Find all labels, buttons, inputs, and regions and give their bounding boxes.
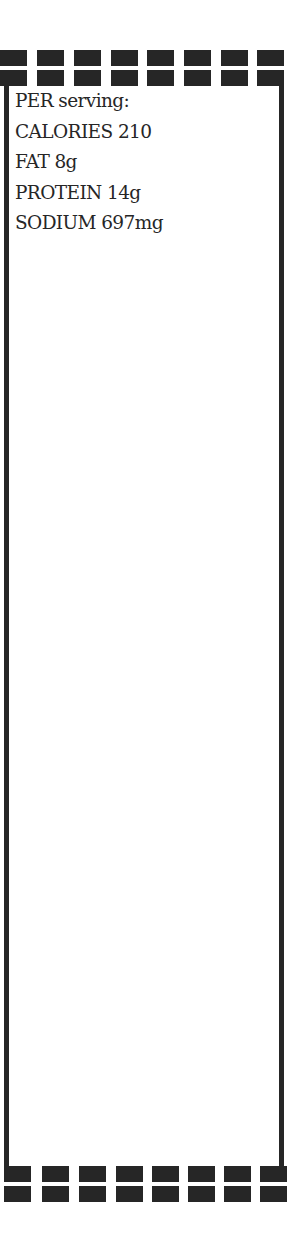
border-square: [224, 1166, 251, 1182]
border-square: [74, 70, 101, 86]
nutrient-label: CALORIES: [15, 121, 113, 142]
border-square: [37, 50, 64, 66]
border-square: [188, 1166, 215, 1182]
nutrient-label: PROTEIN: [15, 182, 102, 203]
border-square: [79, 1166, 106, 1182]
nutrient-sodium: SODIUM 697mg: [15, 208, 163, 239]
border-square: [74, 50, 101, 66]
nutrient-value: 14g: [107, 182, 141, 203]
border-square: [147, 70, 174, 86]
border-square: [111, 70, 138, 86]
border-square: [111, 50, 138, 66]
border-square: [4, 1186, 31, 1202]
nutrient-calories: CALORIES 210: [15, 117, 163, 148]
border-square: [221, 50, 248, 66]
nutrient-value: 210: [118, 121, 152, 142]
border-square: [4, 1166, 31, 1182]
right-border-line: [279, 80, 284, 1180]
border-square: [224, 1186, 251, 1202]
border-square: [147, 50, 174, 66]
border-square: [260, 1166, 287, 1182]
border-square: [116, 1186, 143, 1202]
nutrient-label: FAT: [15, 151, 49, 172]
border-square: [188, 1186, 215, 1202]
nutrition-facts: PER serving: CALORIES 210 FAT 8g PROTEIN…: [15, 86, 163, 239]
nutrient-fat: FAT 8g: [15, 147, 163, 178]
nutrient-value: 697mg: [101, 212, 163, 233]
nutrient-protein: PROTEIN 14g: [15, 178, 163, 209]
border-square: [152, 1166, 179, 1182]
nutrient-value: 8g: [54, 151, 76, 172]
border-square: [42, 1186, 69, 1202]
border-square: [0, 50, 27, 66]
border-square: [152, 1186, 179, 1202]
border-square: [221, 70, 248, 86]
left-border-line: [4, 80, 9, 1180]
border-square: [184, 70, 211, 86]
border-square: [42, 1166, 69, 1182]
serving-heading: PER serving:: [15, 86, 163, 117]
border-square: [116, 1166, 143, 1182]
border-square: [37, 70, 64, 86]
border-square: [184, 50, 211, 66]
nutrient-label: SODIUM: [15, 212, 96, 233]
border-square: [257, 50, 284, 66]
border-square: [260, 1186, 287, 1202]
border-square: [79, 1186, 106, 1202]
